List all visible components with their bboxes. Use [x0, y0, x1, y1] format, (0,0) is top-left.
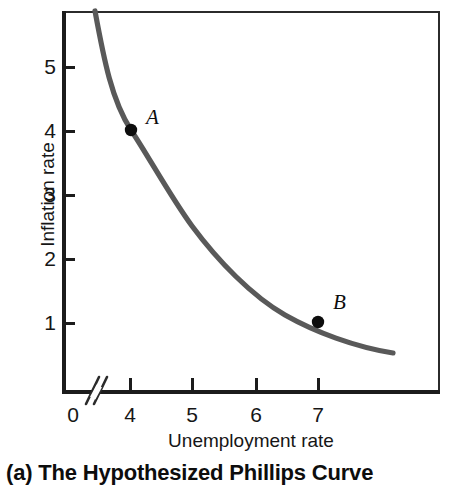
- x-tick-4: [129, 378, 132, 390]
- y-tick-4: [64, 130, 75, 133]
- caption-tag: (a): [6, 460, 32, 485]
- y-tick-1: [64, 322, 75, 325]
- y-tick-label-1: 1: [34, 312, 56, 333]
- caption-text: The Hypothesized Phillips Curve: [38, 460, 373, 485]
- x-tick-label-7: 7: [305, 404, 331, 425]
- y-tick-5: [64, 66, 75, 69]
- x-tick-label-0: 0: [60, 404, 86, 425]
- x-tick-7: [317, 378, 320, 390]
- x-tick-label-5: 5: [179, 404, 205, 425]
- y-tick-3: [64, 194, 75, 197]
- x-tick-6: [255, 378, 258, 390]
- y-tick-label-5: 5: [34, 56, 56, 77]
- figure-caption: (a)The Hypothesized Phillips Curve: [6, 461, 373, 485]
- y-tick-2: [64, 258, 75, 261]
- data-point-a-label: A: [146, 107, 159, 128]
- x-tick-5: [191, 378, 194, 390]
- plot-area: [62, 11, 440, 392]
- x-axis-line: [62, 390, 440, 394]
- x-tick-label-4: 4: [117, 404, 143, 425]
- x-tick-label-6: 6: [243, 404, 269, 425]
- data-point-b-label: B: [333, 292, 346, 313]
- x-axis-title: Unemployment rate: [62, 431, 440, 450]
- y-axis-title: Inflation rate: [38, 100, 57, 290]
- phillips-curve-figure: 5 4 3 2 1 0 4 5 6 7 Inflation rate Unemp…: [0, 0, 456, 493]
